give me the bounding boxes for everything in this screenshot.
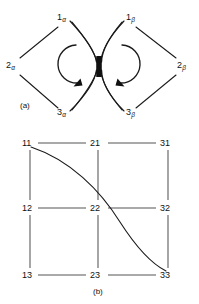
figure-vector-layer	[0, 0, 199, 304]
rotation-arrow-right	[120, 45, 140, 83]
rotation-arrow-left-arc	[58, 45, 78, 83]
center-bar	[96, 56, 102, 77]
curve-inner-left	[70, 21, 96, 62]
label-3-alpha: 3α	[57, 108, 66, 117]
label-3-beta-sub: β	[131, 111, 135, 118]
curve-inner-left-lower	[70, 70, 96, 111]
label-3-beta: 3β	[126, 108, 135, 117]
segment-1beta-2beta	[136, 27, 176, 58]
grid-node-31: 31	[160, 139, 170, 148]
grid-node-23: 23	[90, 271, 100, 280]
rotation-arrow-left	[58, 45, 78, 83]
panel-a-tag: (a)	[20, 102, 30, 110]
label-1-alpha: 1α	[57, 13, 66, 22]
segment-2beta-3beta	[136, 75, 176, 108]
label-1-beta-sub: β	[131, 16, 135, 23]
label-2-alpha-sub: α	[11, 64, 15, 71]
grid-node-12: 12	[22, 204, 32, 213]
label-2-alpha: 2α	[6, 61, 15, 70]
label-2-beta: 2β	[177, 61, 186, 70]
label-1-beta: 1β	[126, 13, 135, 22]
curve-inner-right	[102, 21, 124, 62]
label-2-beta-sub: β	[182, 64, 186, 71]
figure-root: 1α 2α 3α 1β 2β 3β (a) 11 21 31 12 22 32 …	[0, 0, 199, 304]
grid-node-11: 11	[22, 139, 31, 148]
grid-node-32: 32	[160, 204, 170, 213]
curve-lower-right	[101, 70, 122, 110]
label-3-alpha-sub: α	[62, 111, 66, 118]
grid-node-21: 21	[90, 139, 100, 148]
grid-node-22: 22	[90, 204, 100, 213]
grid-node-13: 13	[22, 271, 32, 280]
grid-node-33: 33	[160, 271, 170, 280]
panel-b-tag: (b)	[93, 288, 103, 296]
curve-upper-right	[101, 22, 122, 62]
curve-inner-right-lower	[102, 70, 124, 111]
curve-lower-left	[72, 70, 97, 110]
rotation-arrow-right-arc	[120, 45, 140, 83]
label-1-alpha-sub: α	[62, 16, 66, 23]
segment-1alpha-2alpha	[20, 27, 58, 58]
